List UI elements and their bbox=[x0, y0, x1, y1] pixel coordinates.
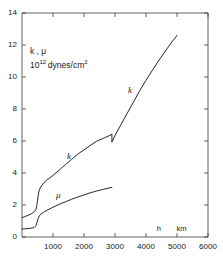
curve-k-upper-branch bbox=[112, 35, 177, 141]
plot-area bbox=[0, 0, 223, 261]
chart-figure: 02468101214 100020003000400050006000 kkμ… bbox=[0, 0, 223, 261]
mu-curve-label: μ bbox=[56, 191, 61, 200]
y-axis-unit-text: dynes/cm bbox=[48, 60, 84, 70]
y-tick-label: 12 bbox=[3, 41, 17, 49]
y-axis-unit-power: 2 bbox=[84, 59, 87, 65]
y-tick-label: 8 bbox=[3, 105, 17, 113]
y-axis-caption-line1: k , μ bbox=[30, 46, 88, 57]
y-axis-caption-line2: 1012 dynes/cm2 bbox=[30, 58, 88, 71]
x-axis-symbol-label: h bbox=[157, 225, 161, 233]
y-tick-label: 4 bbox=[3, 169, 17, 177]
y-tick-label: 6 bbox=[3, 137, 17, 145]
x-tick-label: 1000 bbox=[38, 243, 68, 251]
y-tick-label: 0 bbox=[3, 233, 17, 241]
curve-mu bbox=[22, 187, 112, 229]
y-tick-label: 10 bbox=[3, 73, 17, 81]
y-tick-label: 2 bbox=[3, 201, 17, 209]
curve-k bbox=[22, 134, 112, 218]
x-tick-label: 4000 bbox=[131, 243, 161, 251]
x-axis-unit-label: km bbox=[176, 225, 186, 233]
y-axis-unit-exponent: 12 bbox=[39, 59, 46, 65]
x-tick-label: 2000 bbox=[69, 243, 99, 251]
x-tick-label: 3000 bbox=[100, 243, 130, 251]
k-curve-label-upper: k bbox=[128, 86, 132, 95]
x-tick-label: 6000 bbox=[193, 243, 223, 251]
k-curve-label-lower: k bbox=[67, 152, 71, 161]
y-tick-label: 14 bbox=[3, 9, 17, 17]
x-tick-label: 5000 bbox=[162, 243, 192, 251]
y-axis-caption: k , μ 1012 dynes/cm2 bbox=[30, 46, 88, 71]
